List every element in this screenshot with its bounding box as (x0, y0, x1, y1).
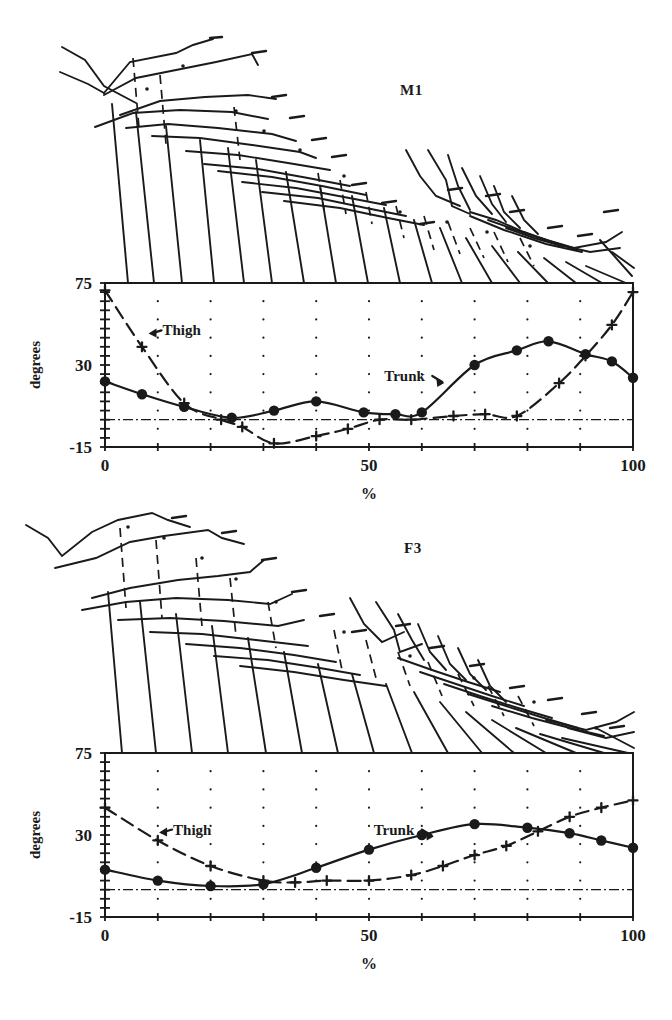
data-point-marker (153, 875, 163, 885)
panel-label-f3: F3 (404, 540, 422, 557)
data-point-marker (311, 396, 321, 406)
series-annotation-trunk: Trunk (374, 822, 415, 838)
y-tick-label: -15 (69, 438, 92, 457)
data-point-marker (343, 424, 352, 433)
series-line (105, 290, 633, 443)
data-point-marker (565, 812, 574, 821)
data-point-marker (291, 878, 300, 887)
series-thigh (101, 286, 638, 448)
data-point-marker (322, 876, 331, 885)
annotation-arrow (159, 828, 172, 837)
data-point-marker (596, 835, 606, 845)
y-tick-label: 75 (75, 274, 92, 293)
series-line (105, 800, 633, 882)
panel-f3: F3 -153075degrees050100%ThighTrunk (0, 480, 672, 1020)
data-point-marker (522, 823, 532, 833)
data-point-marker (438, 861, 447, 870)
x-axis-title: % (361, 955, 377, 972)
data-point-marker (364, 844, 374, 854)
data-point-marker (100, 376, 110, 386)
x-tick-label: 100 (620, 926, 646, 945)
x-tick-label: 50 (361, 456, 378, 475)
data-point-marker (629, 796, 638, 805)
data-point-marker (153, 836, 162, 845)
data-point-marker (502, 841, 511, 850)
stick-figure-diagram-m1 (0, 0, 672, 290)
data-point-marker (597, 803, 606, 812)
data-point-marker (205, 881, 215, 891)
chart-f3: -153075degrees050100%ThighTrunk (0, 740, 672, 980)
x-tick-label: 50 (361, 926, 378, 945)
data-point-marker (311, 863, 321, 873)
data-point-marker (607, 356, 617, 366)
y-tick-label: 30 (75, 356, 92, 375)
y-tick-label: -15 (69, 908, 92, 927)
data-point-marker (564, 828, 574, 838)
series-annotation-thigh: Thigh (173, 822, 212, 838)
data-point-marker (312, 432, 321, 441)
y-tick-label: 30 (75, 826, 92, 845)
annotation-arrow (432, 376, 444, 387)
data-point-marker (390, 409, 400, 419)
plot-frame (105, 283, 633, 447)
data-point-marker (206, 861, 215, 870)
x-tick-label: 0 (101, 456, 110, 475)
data-point-marker (470, 851, 479, 860)
y-axis-title: degrees (27, 811, 43, 859)
data-point-marker (100, 864, 110, 874)
data-point-marker (543, 336, 553, 346)
panel-m1: M1 -153075degrees050100%ThighTrunk (0, 0, 672, 500)
data-point-marker (359, 407, 369, 417)
x-tick-label: 0 (101, 926, 110, 945)
data-point-marker (628, 373, 638, 383)
data-point-marker (269, 405, 279, 415)
data-point-marker (238, 422, 247, 431)
series-thigh (101, 796, 638, 887)
data-point-marker (407, 871, 416, 880)
chart-m1: -153075degrees050100%ThighTrunk (0, 270, 672, 500)
grid-dots (157, 300, 582, 430)
y-tick-label: 75 (75, 744, 92, 763)
data-point-marker (365, 876, 374, 885)
annotation-arrow (149, 328, 162, 337)
panel-label-m1: M1 (400, 82, 423, 99)
y-axis-title: degrees (27, 341, 43, 389)
data-point-marker (469, 360, 479, 370)
data-point-marker (137, 389, 147, 399)
data-point-marker (481, 410, 490, 419)
stick-figure-diagram-f3 (0, 480, 672, 760)
data-point-marker (512, 345, 522, 355)
data-point-marker (469, 819, 479, 829)
x-tick-label: 100 (620, 456, 646, 475)
series-annotation-trunk: Trunk (384, 368, 425, 384)
series-annotation-thigh: Thigh (163, 322, 202, 338)
data-point-marker (417, 407, 427, 417)
data-point-marker (628, 843, 638, 853)
data-point-marker (375, 415, 384, 424)
